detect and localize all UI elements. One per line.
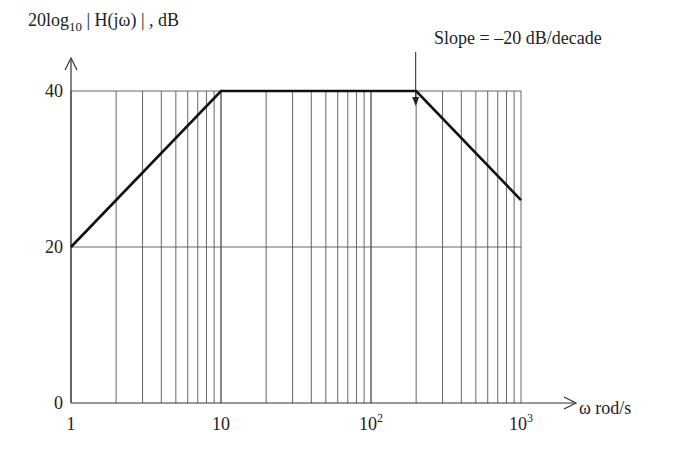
axes: [65, 58, 576, 409]
svg-text:1: 1: [67, 414, 76, 434]
svg-text:Slope = –20 dB/decade: Slope = –20 dB/decade: [434, 28, 602, 48]
y-axis-label: 20log10 | H(jω) | , dB: [28, 10, 179, 34]
svg-text:0: 0: [54, 393, 63, 413]
svg-text:103: 103: [509, 411, 533, 434]
tick-labels: 02040110102103: [45, 81, 533, 434]
grid-lines: [71, 91, 521, 403]
magnitude-curve: [71, 91, 521, 247]
bode-magnitude-chart: 02040110102103 20log10 | H(jω) | , dB ω …: [0, 0, 675, 452]
svg-text:102: 102: [359, 411, 383, 434]
x-axis-label: ω rod/s: [579, 398, 631, 418]
svg-text:40: 40: [45, 81, 63, 101]
svg-text:20: 20: [45, 237, 63, 257]
svg-text:10: 10: [212, 414, 230, 434]
